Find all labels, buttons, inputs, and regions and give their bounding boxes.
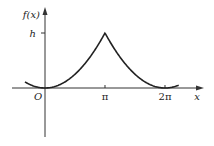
series-line-f-x- bbox=[25, 33, 179, 88]
y-tick-label: h bbox=[30, 28, 36, 39]
x-tick-label: π bbox=[102, 91, 109, 102]
origin-label: O bbox=[34, 91, 42, 102]
x-axis-label: x bbox=[194, 91, 200, 102]
y-axis-label: f(x) bbox=[22, 9, 40, 20]
x-tick-label: 2π bbox=[159, 91, 172, 102]
y-axis-arrow-icon bbox=[43, 7, 48, 15]
x-axis-arrow-icon bbox=[196, 86, 204, 91]
function-graph: π2πhf(x)xO bbox=[0, 0, 214, 146]
